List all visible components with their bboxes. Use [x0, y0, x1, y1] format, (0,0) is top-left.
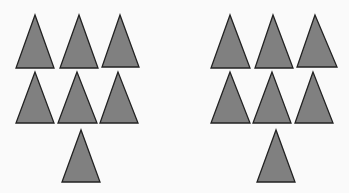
triangle-shape: [16, 15, 54, 68]
triangle-shape: [100, 72, 138, 123]
triangle-shape: [62, 130, 100, 182]
triangle-shape: [102, 15, 139, 67]
triangle-shape: [58, 72, 97, 123]
triangle-shape: [60, 15, 98, 68]
triangle-shape: [16, 72, 54, 123]
triangle-shape: [255, 15, 293, 68]
triangle-shape: [211, 15, 250, 68]
left-triangle-group: [16, 15, 139, 182]
triangle-shape: [297, 15, 337, 67]
triangle-shape: [295, 72, 333, 123]
triangle-shape: [211, 72, 250, 123]
triangle-shape: [253, 72, 291, 123]
triangles-diagram: [0, 0, 349, 193]
right-triangle-group: [211, 15, 337, 182]
triangle-shape: [257, 130, 295, 182]
